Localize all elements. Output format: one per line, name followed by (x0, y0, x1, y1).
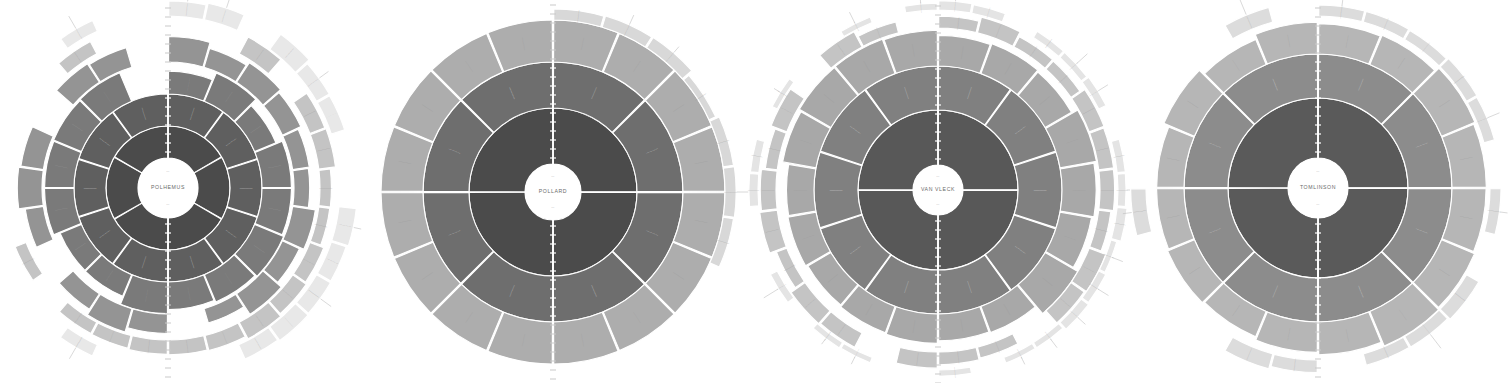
segment-name-label: ———— (762, 188, 776, 192)
segment-name-label: ———— (919, 2, 923, 13)
hub-top-tick: — (166, 169, 170, 173)
generation-fringe-tick (1487, 113, 1499, 118)
generation-fringe-tick (69, 16, 76, 28)
segment-name-label: ———— (23, 186, 37, 190)
hub-top-tick: — (936, 174, 940, 178)
generation-fringe-tick (188, 0, 190, 1)
hub-bottom-tick: — (1316, 202, 1320, 206)
segment-name-label: ———— (953, 367, 957, 378)
generation-fringe-tick (1098, 85, 1108, 91)
chart-polhemus[interactable]: ————————————————————————————————————————… (0, 0, 382, 383)
segment-name-label: ———— (295, 186, 309, 190)
center-surname-label: POLLARD (539, 188, 567, 194)
hub-top-tick: — (551, 174, 555, 178)
generation-fringe-tick (1077, 54, 1088, 64)
segment-name-label: ———— (794, 188, 808, 192)
generation-fringe-tick (1078, 318, 1085, 325)
center-surname-label: POLHEMUS (151, 184, 185, 190)
generation-fringe-tick (764, 289, 778, 298)
segment-name-label: ———— (319, 186, 333, 190)
fan-chart-panel: ————————————————————————————————————————… (0, 0, 1509, 383)
generation-fringe-tick (227, 0, 230, 8)
generation-fringe-tick (319, 71, 328, 78)
hub-bottom-tick: — (166, 202, 170, 206)
generation-fringe-tick (69, 348, 75, 359)
segment-name-label: ———— (1073, 188, 1087, 192)
chart-pollard[interactable]: ————————————————————————————————————————… (346, 0, 760, 383)
hub-bottom-tick: — (551, 205, 555, 209)
generation-fringe-tick (1342, 0, 1343, 6)
generation-fringe-tick (321, 299, 332, 307)
generation-fringe-tick (630, 15, 634, 24)
generation-fringe-tick (1500, 212, 1508, 213)
segment-name-label: ———— (1034, 188, 1048, 192)
generation-fringe-tick (674, 47, 679, 53)
segment-name-label: ———— (240, 186, 254, 190)
generation-fringe-tick (1123, 213, 1132, 214)
generation-fringe-tick (1240, 0, 1246, 15)
generation-fringe-tick (1098, 289, 1108, 295)
segment-name-label: ———— (84, 186, 98, 190)
center-surname-label: TOMLINSON (1300, 184, 1336, 190)
hub-bottom-tick: — (936, 202, 940, 206)
chart-tomlinson[interactable]: ————————————————————————————————————————… (1108, 0, 1509, 383)
segment-name-label: ———— (748, 189, 759, 192)
generation-fringe-tick (1430, 334, 1441, 348)
center-surname-label: VAN VLECK (921, 186, 955, 192)
chart-van-vleck[interactable]: ————————————————————————————————————————… (726, 0, 1150, 383)
segment-name-label: ———— (830, 188, 844, 192)
hub-top-tick: — (1316, 169, 1320, 173)
